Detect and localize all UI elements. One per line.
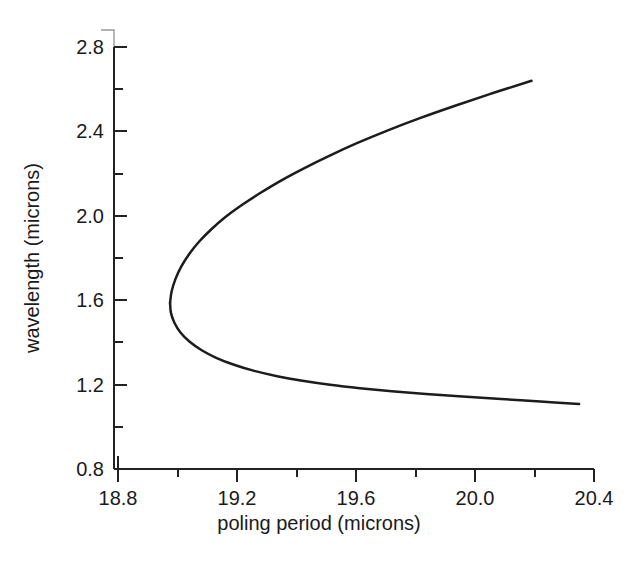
data-curve-upper-branch xyxy=(170,81,531,303)
y-axis-title: wavelength (microns) xyxy=(21,163,44,353)
plot-canvas xyxy=(0,0,638,567)
x-tick-label: 18.8 xyxy=(99,487,138,510)
data-curve-lower-branch xyxy=(170,303,579,404)
y-tick-label: 2.8 xyxy=(48,36,104,59)
y-axis-minor-ticks xyxy=(114,89,123,427)
y-tick-label: 2.4 xyxy=(48,120,104,143)
y-tick-label: 1.6 xyxy=(48,289,104,312)
y-tick-label: 1.2 xyxy=(48,374,104,397)
x-tick-label: 20.0 xyxy=(456,487,495,510)
y-tick-label: 0.8 xyxy=(48,458,104,481)
y-tick-label: 2.0 xyxy=(48,205,104,228)
x-tick-label: 19.6 xyxy=(337,487,376,510)
x-tick-label: 19.2 xyxy=(218,487,257,510)
x-axis-title: poling period (microns) xyxy=(0,512,638,535)
x-tick-label: 20.4 xyxy=(575,487,614,510)
figure-root: 2.8 2.4 2.0 1.6 1.2 0.8 18.8 19.2 19.6 2… xyxy=(0,0,638,567)
